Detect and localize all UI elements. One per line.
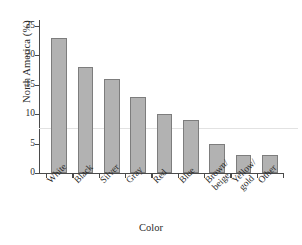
- y-axis-tick-mark: [35, 26, 39, 27]
- y-axis-tick-mark: [35, 85, 39, 86]
- bar: [104, 79, 120, 173]
- bar: [157, 114, 173, 173]
- y-axis-tick-label: 25: [19, 21, 35, 31]
- bar: [130, 97, 146, 174]
- y-axis-tick-label: 0: [19, 168, 35, 178]
- y-axis-tick-mark: [35, 114, 39, 115]
- y-axis-tick-mark: [35, 144, 39, 145]
- x-axis-tick-labels: WhiteBlackSilverGrayRedBlueBrown/beigeYe…: [39, 173, 302, 223]
- y-axis-line: [39, 20, 40, 173]
- y-axis-tick-mark: [35, 55, 39, 56]
- bar-chart: North America (%) 0510152025 WhiteBlackS…: [0, 0, 302, 245]
- x-axis-title: Color: [0, 222, 302, 233]
- y-axis-tick-labels: 0510152025: [15, 0, 35, 245]
- bar: [51, 38, 67, 173]
- bar: [78, 67, 94, 173]
- bar: [183, 120, 199, 173]
- y-axis-tick-label: 20: [19, 50, 35, 60]
- plot-area: [39, 20, 284, 173]
- y-axis-tick-label: 15: [19, 80, 35, 90]
- y-axis-tick-label: 10: [19, 109, 35, 119]
- y-axis-tick-label: 5: [19, 139, 35, 149]
